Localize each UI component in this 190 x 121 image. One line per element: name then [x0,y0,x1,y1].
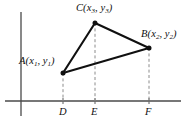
vertex-point-c [93,21,98,26]
vertex-point-b [147,46,152,51]
geometry-figure: C(x3, y3) B(x2, y2) A(x1, y1) D E F [0,0,190,121]
vertex-label-a-close-paren: ) [51,55,55,66]
vertex-label-b: B(x2, y2) [141,29,177,41]
vertex-label-c-close-paren: ) [109,2,113,13]
vertex-label-b-close-paren: ) [173,28,177,39]
axis-label-f: F [145,107,151,118]
vertex-point-a [61,71,66,76]
axis-label-e: E [91,107,97,118]
axis-label-d: D [59,107,67,118]
vertex-label-a: A(x1, y1) [19,56,55,68]
vertex-label-c: C(x3, y3) [76,3,112,15]
